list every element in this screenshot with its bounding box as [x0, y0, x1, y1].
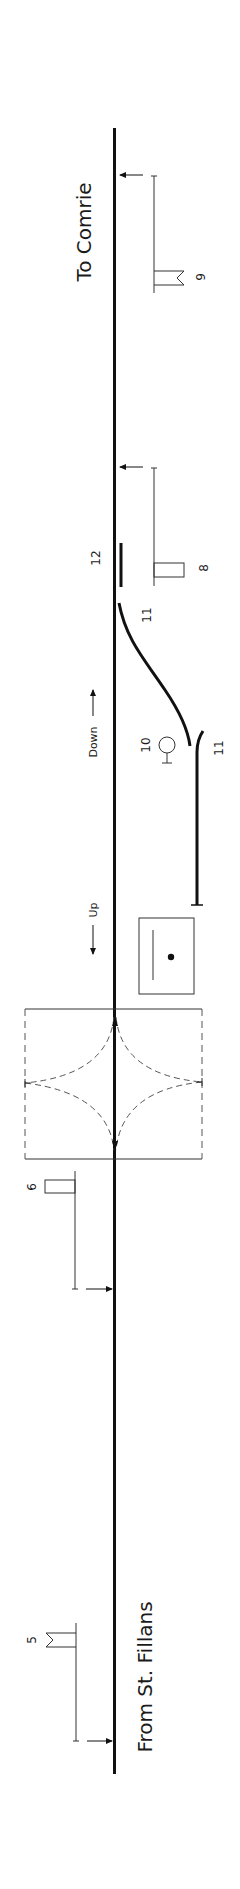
signal-5 [46, 1623, 112, 1741]
signal-6-number: 6 [25, 1183, 39, 1191]
siding [197, 731, 203, 905]
points-11-crossover [119, 603, 190, 746]
signal-6 [45, 1171, 112, 1289]
destination-to-label: To Comrie [72, 182, 96, 282]
destination-from-label: From St. Fillans [133, 1601, 157, 1752]
signal-5-number: 5 [25, 1636, 39, 1644]
signal-10 [159, 737, 175, 763]
up-label: Up [87, 902, 100, 917]
fpl-12-number: 12 [89, 550, 103, 565]
signal-8-number: 8 [197, 564, 211, 572]
points-11-number-siding: 11 [212, 740, 226, 755]
signal-10-number: 10 [139, 737, 153, 752]
signal-box [139, 918, 194, 994]
track-diagram: To Comrie From St. Fillans Down Up 9 8 1… [0, 0, 240, 1889]
signal-8 [120, 467, 184, 586]
points-11-number-main: 11 [140, 607, 154, 622]
signal-9-number: 9 [194, 273, 208, 281]
signal-9 [120, 175, 184, 293]
down-label: Down [87, 726, 100, 757]
